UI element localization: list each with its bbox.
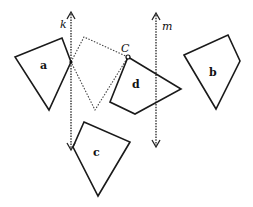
shape-d-label: d (132, 78, 140, 91)
vertex-on-k-marker (69, 60, 72, 63)
quadrilateral-c (73, 122, 130, 196)
shape-c: c (73, 122, 130, 196)
point-c: C (121, 42, 130, 59)
quadrilateral-a (15, 38, 71, 110)
shape-d: d (110, 57, 181, 114)
arrow-down-icon (152, 140, 160, 147)
shape-b: b (184, 35, 240, 109)
transformation-diagram: k m a b c d C (0, 0, 253, 207)
shape-b-label: b (209, 66, 217, 79)
point-c-label: C (121, 42, 130, 55)
line-m-label: m (162, 20, 172, 33)
shape-a: a (15, 38, 71, 110)
shape-a-label: a (40, 59, 47, 72)
line-k-label: k (60, 18, 67, 31)
shape-c-label: c (93, 146, 100, 159)
point-c-marker (126, 55, 130, 59)
dashed-quadrilateral (71, 37, 128, 110)
line-m: m (152, 13, 172, 147)
quadrilateral-d (110, 57, 181, 114)
